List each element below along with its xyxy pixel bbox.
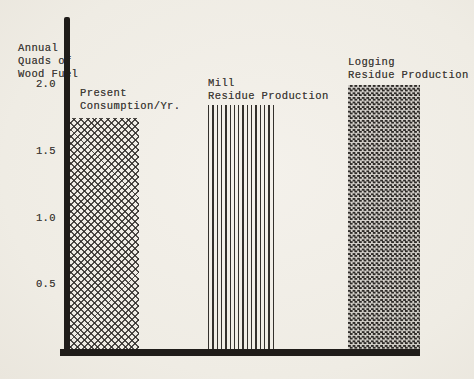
bar-label-line: Mill [208, 77, 329, 90]
y-tick-label-1-0: 1.0 [16, 212, 56, 225]
bar-label-line: Residue Production [348, 69, 469, 82]
bar-label-line: Consumption/Yr. [80, 100, 181, 113]
bar-label-line: Present [80, 87, 181, 100]
y-tick-label-0-5: 0.5 [16, 278, 56, 291]
bar-label-mill-residue-production: Mill Residue Production [208, 77, 329, 103]
x-axis-line [60, 349, 420, 356]
y-axis-line [64, 17, 70, 356]
bar-label-logging-residue-production: Logging Residue Production [348, 56, 469, 82]
y-tick-label-2-0: 2.0 [16, 78, 56, 91]
bar-logging-residue-production [348, 85, 420, 352]
bar-present-consumption [68, 118, 139, 352]
bar-label-present-consumption: Present Consumption/Yr. [80, 87, 181, 113]
bar-mill-residue-production [208, 105, 277, 352]
y-tick-label-1-5: 1.5 [16, 145, 56, 158]
bar-label-line: Residue Production [208, 90, 329, 103]
bar-label-line: Logging [348, 56, 469, 69]
scanned-chart-page: Annual Quads of Wood Fuel 2.0 1.5 1.0 0.… [0, 0, 474, 379]
